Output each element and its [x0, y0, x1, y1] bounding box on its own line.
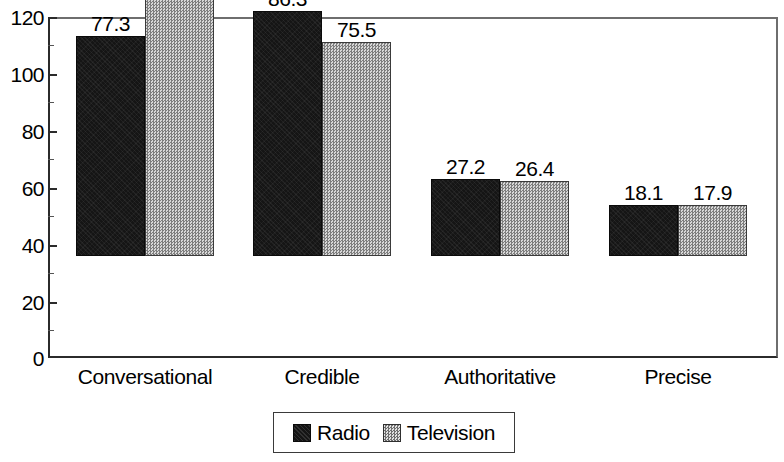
x-tick-label-precise: Precise	[644, 364, 711, 390]
bar-television-conversational[interactable]: 96.2	[145, 0, 214, 256]
bars-layer: 77.3 96.2 86.3 75.5 27.2 26.4 18.1 17.9	[0, 0, 784, 360]
bar-value-label: 18.1	[624, 182, 663, 204]
bar-value-label: 27.2	[446, 156, 485, 178]
bar-radio-conversational[interactable]: 77.3	[76, 36, 145, 256]
television-swatch-icon	[383, 424, 401, 442]
bar-value-label: 86.3	[268, 0, 307, 10]
bar-radio-precise[interactable]: 18.1	[609, 205, 678, 256]
bar-television-precise[interactable]: 17.9	[678, 205, 747, 256]
bar-value-label: 26.4	[515, 158, 554, 180]
x-tick-label-conversational: Conversational	[78, 364, 212, 390]
bar-value-label: 77.3	[91, 13, 130, 35]
bar-value-label: 17.9	[693, 182, 732, 204]
bar-chart: 120 100 80 60 40 20 0 77.3 96.2 86.3	[0, 0, 784, 462]
x-tick-label-authoritative: Authoritative	[444, 364, 556, 390]
bar-radio-credible[interactable]: 86.3	[253, 11, 322, 256]
legend-label-radio: Radio	[317, 422, 370, 444]
legend-entry-radio[interactable]: Radio	[293, 422, 370, 444]
radio-swatch-icon	[293, 424, 311, 442]
legend: Radio Television	[273, 412, 515, 453]
legend-entry-television[interactable]: Television	[383, 422, 495, 444]
legend-label-television: Television	[407, 422, 495, 444]
bar-value-label: 75.5	[337, 19, 376, 41]
bar-television-credible[interactable]: 75.5	[322, 42, 391, 256]
x-axis-labels: Conversational Credible Authoritative Pr…	[0, 364, 784, 394]
x-tick-label-credible: Credible	[284, 364, 359, 390]
bar-radio-authoritative[interactable]: 27.2	[431, 179, 500, 256]
bar-television-authoritative[interactable]: 26.4	[500, 181, 569, 256]
